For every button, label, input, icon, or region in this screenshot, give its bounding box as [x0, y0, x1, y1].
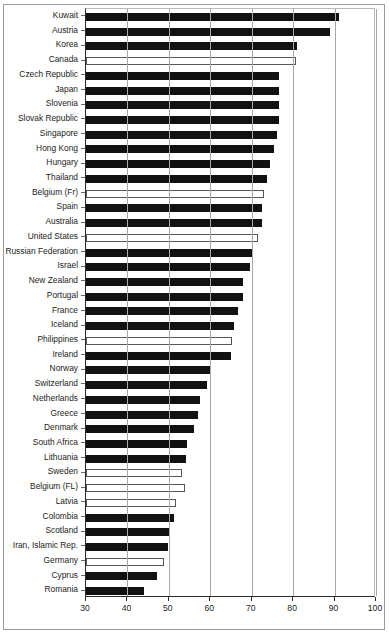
value-tick-label: 40 — [122, 603, 132, 613]
category-label: United States — [28, 229, 78, 245]
bar-row — [86, 362, 374, 378]
category-tick — [81, 575, 85, 576]
category-tick — [81, 516, 85, 517]
bar-row — [86, 421, 374, 437]
category-tick — [81, 325, 85, 326]
gridline-100 — [376, 9, 377, 596]
category-tick — [81, 15, 85, 16]
bar-row — [86, 112, 374, 128]
category-tick — [81, 148, 85, 149]
category-tick — [81, 531, 85, 532]
bar-row — [86, 200, 374, 216]
bar-row — [86, 465, 374, 481]
bar-row — [86, 38, 374, 54]
category-label: Slovak Republic — [18, 111, 78, 127]
bar-row — [86, 215, 374, 231]
category-tick — [81, 251, 85, 252]
bar-row — [86, 24, 374, 40]
value-tick-30 — [85, 597, 86, 601]
category-label: Austria — [52, 23, 78, 39]
gridline-60 — [210, 9, 211, 596]
bar-row — [86, 392, 374, 408]
category-tick — [81, 207, 85, 208]
bar-germany — [86, 558, 164, 566]
category-tick — [81, 30, 85, 31]
category-tick — [81, 590, 85, 591]
bar-czech-republic — [86, 72, 279, 80]
bar-rows — [86, 9, 374, 596]
category-tick — [81, 74, 85, 75]
category-label: Israel — [58, 258, 78, 274]
category-tick — [81, 472, 85, 473]
category-tick — [81, 133, 85, 134]
category-tick — [81, 545, 85, 546]
bar-row — [86, 186, 374, 202]
bar-kuwait — [86, 13, 339, 21]
bar-australia — [86, 219, 262, 227]
bar-row — [86, 68, 374, 84]
category-tick — [81, 266, 85, 267]
category-label: Australia — [45, 214, 78, 230]
category-tick — [81, 560, 85, 561]
bar-row — [86, 569, 374, 585]
category-tick — [81, 236, 85, 237]
category-tick — [81, 398, 85, 399]
bar-row — [86, 304, 374, 320]
bar-romania — [86, 587, 144, 595]
bar-row — [86, 348, 374, 364]
bar-united-states — [86, 234, 258, 242]
bar-row — [86, 436, 374, 452]
gridline-40 — [127, 9, 128, 596]
plot-area — [85, 8, 375, 597]
bar-row — [86, 554, 374, 570]
bar-israel — [86, 263, 250, 271]
value-axis: 30405060708090100 — [0, 597, 389, 623]
category-tick — [81, 501, 85, 502]
bar-row — [86, 97, 374, 113]
category-tick — [81, 383, 85, 384]
value-tick-label: 90 — [329, 603, 339, 613]
category-label: Belgium (FL) — [30, 479, 78, 495]
bar-row — [86, 377, 374, 393]
bar-denmark — [86, 425, 194, 433]
category-tick — [81, 163, 85, 164]
value-tick-50 — [168, 597, 169, 601]
value-tick-90 — [334, 597, 335, 601]
category-label: Netherlands — [33, 391, 78, 407]
category-label: Iran, Islamic Rep. — [13, 538, 78, 554]
category-label: Czech Republic — [19, 67, 78, 83]
category-label: Greece — [51, 406, 78, 422]
value-tick-100 — [375, 597, 376, 601]
category-label: Ireland — [52, 347, 78, 363]
category-tick — [81, 104, 85, 105]
gridline-50 — [169, 9, 170, 596]
bar-korea — [86, 42, 297, 50]
category-tick — [81, 222, 85, 223]
value-tick-70 — [251, 597, 252, 601]
category-label: Russian Federation — [5, 244, 78, 260]
bar-portugal — [86, 293, 243, 301]
category-label: Cyprus — [51, 568, 78, 584]
bar-slovak-republic — [86, 116, 279, 124]
category-tick — [81, 442, 85, 443]
bar-row — [86, 495, 374, 511]
value-tick-label: 30 — [80, 603, 90, 613]
bar-thailand — [86, 175, 267, 183]
bar-row — [86, 289, 374, 305]
category-tick — [81, 45, 85, 46]
category-tick — [81, 280, 85, 281]
bar-colombia — [86, 514, 174, 522]
bar-row — [86, 245, 374, 261]
value-tick-60 — [209, 597, 210, 601]
category-tick — [81, 310, 85, 311]
category-label: Philippines — [37, 332, 78, 348]
category-label: Latvia — [56, 494, 78, 510]
category-tick — [81, 487, 85, 488]
bar-row — [86, 407, 374, 423]
category-label: Belgium (Fr) — [32, 185, 78, 201]
bar-netherlands — [86, 396, 200, 404]
bar-row — [86, 510, 374, 526]
category-tick — [81, 192, 85, 193]
bar-slovenia — [86, 101, 279, 109]
bar-france — [86, 307, 238, 315]
